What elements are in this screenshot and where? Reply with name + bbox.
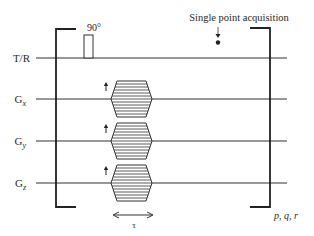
acquisition-label: Single point acquisition: [189, 12, 289, 23]
arrow-up-icon: [104, 166, 108, 170]
acquisition-arrow-head: [216, 34, 221, 38]
gradient-table-gz: [104, 165, 152, 201]
channel-label-gz: Gz: [15, 177, 27, 192]
tau-label: τ: [132, 220, 136, 230]
pulse-sequence-diagram: T/R Gx Gy Gz 90° Single point acquisitio…: [0, 0, 314, 236]
gradient-table-gy: [104, 123, 152, 159]
loop-bracket-left: [56, 29, 76, 207]
arrow-up-icon: [104, 124, 108, 128]
arrow-up-icon: [104, 82, 108, 86]
phase-encode-gradients: [104, 81, 152, 201]
gradient-table-gx: [104, 81, 152, 117]
rf-pulse-90: [84, 35, 93, 58]
channel-label-gy: Gy: [14, 135, 26, 150]
acquisition-point: [216, 40, 220, 44]
rf-pulse-label: 90°: [87, 22, 101, 33]
loop-bracket-right: [250, 28, 270, 207]
channel-label-gx: Gx: [14, 93, 26, 108]
loop-label: p, q, r: [273, 210, 298, 221]
channel-label-tr: T/R: [13, 52, 31, 64]
